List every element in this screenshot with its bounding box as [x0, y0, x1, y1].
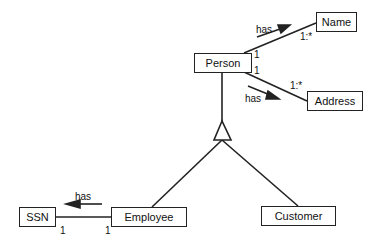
diagram-edges — [0, 0, 382, 240]
mult-person-address: 1 — [254, 66, 260, 76]
class-address[interactable]: Address — [307, 91, 363, 111]
mult-employee-ssn: 1 — [105, 226, 111, 236]
mult-name: 1:* — [300, 32, 312, 42]
mult-ssn: 1 — [60, 226, 66, 236]
arrow-right-icon — [278, 25, 290, 33]
class-employee[interactable]: Employee — [111, 207, 187, 227]
class-name[interactable]: Name — [316, 12, 357, 32]
label-has-name: has — [256, 25, 272, 35]
generalization-customer — [222, 140, 298, 206]
class-person[interactable]: Person — [194, 53, 252, 73]
generalization-employee — [152, 140, 222, 207]
arrow-right-icon — [266, 91, 279, 99]
class-ssn[interactable]: SSN — [19, 207, 56, 227]
class-customer[interactable]: Customer — [261, 206, 336, 226]
generalization-triangle-icon — [214, 121, 231, 140]
mult-person-name: 1 — [254, 50, 260, 60]
mult-address: 1:* — [290, 81, 302, 91]
label-has-address: has — [245, 94, 261, 104]
label-has-ssn: has — [75, 192, 91, 202]
